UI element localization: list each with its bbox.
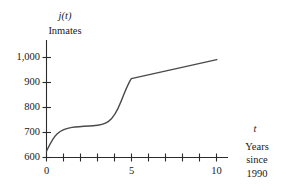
y-tick-label-900: 900: [0, 77, 40, 88]
x-tick-label-0: 0: [34, 166, 59, 177]
y-tick-label-800: 800: [0, 102, 40, 113]
y-tick-label-600: 600: [0, 152, 40, 163]
y-tick-label-1000: 1,000: [0, 52, 40, 63]
x-axis-title-line-1: Years: [233, 140, 281, 153]
x-axis-variable-label: t: [235, 124, 275, 135]
y-tick-label-700: 700: [0, 127, 40, 138]
x-axis-title-line-2: since: [233, 153, 281, 166]
x-tick-label-10: 10: [204, 166, 229, 177]
data-series-inmates: [47, 60, 217, 152]
x-tick-label-5: 5: [119, 166, 144, 177]
x-axis-title-line-3: 1990: [233, 167, 281, 180]
y-axis-title: Inmates: [29, 26, 101, 37]
chart-figure: j(t) Inmates 1,000 900 800 700 600 0 5 1…: [0, 0, 287, 190]
y-axis-variable-label: j(t): [43, 11, 87, 22]
x-axis-title: Years since 1990: [233, 140, 281, 180]
